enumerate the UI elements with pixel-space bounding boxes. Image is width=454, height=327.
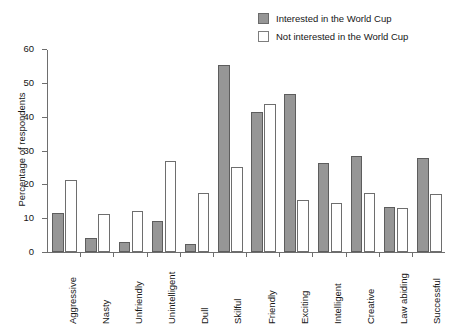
bar-group	[380, 50, 413, 252]
y-axis-tick: 10	[42, 218, 47, 219]
legend-label-interested: Interested in the World Cup	[276, 13, 391, 24]
y-axis-tick-label: 60	[23, 43, 34, 54]
x-axis-label-text: Intelligent	[333, 283, 343, 324]
y-axis-tick-label: 20	[23, 178, 34, 189]
bar-group	[313, 50, 346, 252]
bar	[231, 167, 243, 252]
bar	[132, 211, 144, 252]
y-axis-tick: 50	[42, 83, 47, 84]
bar-group	[247, 50, 280, 252]
bar	[331, 203, 343, 252]
x-axis-tick	[213, 253, 214, 257]
y-axis-tick: 0	[42, 252, 47, 253]
x-axis-label-text: Unfriendly	[134, 281, 144, 324]
x-axis-label-text: Aggressive	[68, 277, 78, 324]
x-axis-labels: AggressiveNastyUnfriendlyUnintelligentDu…	[47, 258, 445, 327]
x-axis-tick	[180, 253, 181, 257]
x-axis-label-text: Law abiding	[399, 273, 409, 324]
bar	[251, 112, 263, 252]
legend-item-not-interested: Not interested in the World Cup	[258, 30, 408, 42]
x-axis-tick	[113, 253, 114, 257]
x-axis-tick	[246, 253, 247, 257]
legend-swatch-filled-icon	[258, 13, 269, 24]
bar	[165, 161, 177, 252]
bar	[318, 163, 330, 252]
bar	[85, 238, 97, 252]
bar	[430, 194, 442, 252]
bar	[397, 208, 409, 252]
bar	[264, 104, 276, 252]
bar	[284, 94, 296, 252]
bar	[98, 214, 110, 252]
y-axis-tick: 20	[42, 184, 47, 185]
x-axis-label-text: Friendly	[267, 290, 277, 324]
bar	[351, 156, 363, 252]
x-axis-label-text: Exciting	[300, 291, 310, 324]
x-axis-tick	[80, 253, 81, 257]
x-axis-label-text: Unintelligent	[167, 272, 177, 324]
legend-item-interested: Interested in the World Cup	[258, 12, 408, 24]
legend-label-not-interested: Not interested in the World Cup	[276, 31, 408, 42]
bar-group	[48, 50, 81, 252]
bar	[384, 207, 396, 252]
bar	[364, 193, 376, 252]
y-axis-tick: 40	[42, 117, 47, 118]
x-axis-tick	[312, 253, 313, 257]
bar-group	[413, 50, 446, 252]
bars-layer	[48, 50, 445, 252]
y-axis-tick-label: 0	[29, 246, 34, 257]
y-axis-tick-label: 50	[23, 77, 34, 88]
y-axis-tick: 60	[42, 49, 47, 50]
chart-legend: Interested in the World Cup Not interest…	[258, 12, 408, 42]
x-axis-tick	[346, 253, 347, 257]
bar	[198, 193, 210, 252]
bar	[297, 200, 309, 252]
bar	[65, 180, 77, 252]
x-axis-label-text: Dull	[200, 308, 210, 324]
x-axis-tick	[279, 253, 280, 257]
bar-group	[81, 50, 114, 252]
bar	[52, 213, 64, 252]
bar	[218, 65, 230, 252]
x-axis-tick	[147, 253, 148, 257]
bar-group	[114, 50, 147, 252]
bar-group	[214, 50, 247, 252]
x-axis-label-text: Skilful	[233, 299, 243, 324]
y-axis-tick-label: 40	[23, 111, 34, 122]
y-axis-tick-label: 10	[23, 212, 34, 223]
x-axis-tick	[379, 253, 380, 257]
bar	[152, 221, 164, 252]
bar	[417, 158, 429, 252]
y-axis-tick-label: 30	[23, 145, 34, 156]
bar	[185, 244, 197, 252]
bar-group	[181, 50, 214, 252]
x-axis-label-text: Successful	[432, 278, 442, 324]
bar-group	[347, 50, 380, 252]
bar-group	[280, 50, 313, 252]
y-axis-tick: 30	[42, 151, 47, 152]
x-axis-label-text: Creative	[366, 289, 376, 324]
bar-group	[148, 50, 181, 252]
bar	[119, 242, 131, 252]
x-axis-tick	[412, 253, 413, 257]
x-axis-label-text: Nasty	[101, 300, 111, 324]
plot-area: 0102030405060	[47, 50, 445, 253]
legend-swatch-open-icon	[258, 31, 269, 42]
bar-chart: Interested in the World Cup Not interest…	[0, 0, 454, 327]
